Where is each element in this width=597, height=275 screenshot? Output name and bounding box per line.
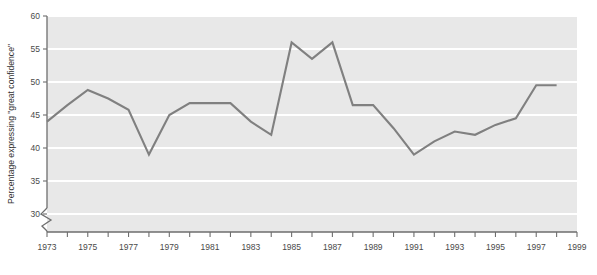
x-tick-label-1991: 1991 (404, 242, 423, 252)
chart-canvas: 30354045505560 1973197519771979198119831… (0, 0, 597, 275)
x-tick-label-1995: 1995 (486, 242, 505, 252)
y-tick-label-45: 45 (31, 110, 41, 120)
x-tick-label-1985: 1985 (282, 242, 301, 252)
x-axis (47, 232, 577, 237)
y-tick-label-50: 50 (31, 77, 41, 87)
x-tick-label-1997: 1997 (527, 242, 546, 252)
x-tick-label-1987: 1987 (323, 242, 342, 252)
y-tick-label-55: 55 (31, 44, 41, 54)
y-axis-title: Percentage expressing "great confidence" (6, 44, 16, 204)
x-tick-label-1983: 1983 (241, 242, 260, 252)
y-tick-label-60: 60 (31, 11, 41, 21)
line-chart: 30354045505560 1973197519771979198119831… (0, 0, 597, 275)
y-tick-labels: 30354045505560 (31, 11, 41, 219)
x-tick-label-1979: 1979 (160, 242, 179, 252)
x-tick-label-1981: 1981 (201, 242, 220, 252)
y-axis-title-text: Percentage expressing "great confidence" (6, 44, 16, 204)
x-tick-label-1977: 1977 (119, 242, 138, 252)
x-tick-label-1999: 1999 (568, 242, 587, 252)
y-tick-label-30: 30 (31, 209, 41, 219)
x-tick-label-1993: 1993 (445, 242, 464, 252)
y-tick-label-40: 40 (31, 143, 41, 153)
y-tick-label-35: 35 (31, 176, 41, 186)
x-tick-label-1973: 1973 (38, 242, 57, 252)
x-tick-label-1989: 1989 (364, 242, 383, 252)
x-tick-label-1975: 1975 (78, 242, 97, 252)
